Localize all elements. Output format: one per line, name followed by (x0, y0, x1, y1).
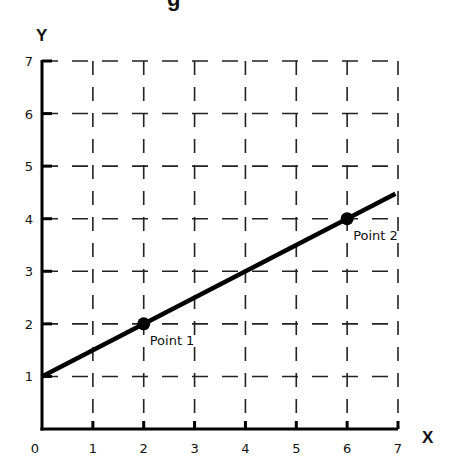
x-tick-label: 7 (394, 441, 402, 456)
title-fragment: g (167, 0, 180, 11)
data-point-marker (137, 317, 150, 330)
y-tick-label: 1 (25, 369, 33, 384)
data-point-marker (341, 212, 354, 225)
y-tick-label: 2 (25, 317, 33, 332)
x-tick-label: 2 (140, 441, 148, 456)
line-chart: g 012345671234567 Y X Point 1Point 2 (0, 0, 460, 476)
y-tick-label: 6 (25, 107, 33, 122)
y-tick-label: 5 (25, 159, 33, 174)
x-tick-label: 0 (31, 441, 39, 456)
x-tick-label: 3 (190, 441, 198, 456)
y-tick-label: 4 (25, 212, 33, 227)
data-points: Point 1Point 2 (137, 212, 398, 348)
dashed-grid (42, 61, 398, 429)
x-tick-label: 5 (292, 441, 300, 456)
y-tick-label: 7 (25, 54, 33, 69)
x-tick-label: 6 (343, 441, 351, 456)
x-tick-label: 1 (89, 441, 97, 456)
axes (41, 60, 399, 431)
x-tick-label: 4 (241, 441, 249, 456)
y-axis-title: Y (36, 26, 48, 45)
y-tick-label: 3 (25, 264, 33, 279)
x-axis-title: X (422, 428, 434, 447)
data-point-label: Point 2 (353, 228, 398, 243)
data-point-label: Point 1 (150, 333, 195, 348)
